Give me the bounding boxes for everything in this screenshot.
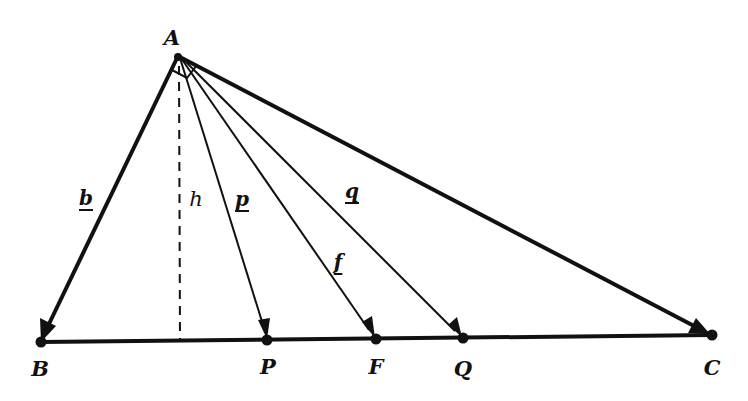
point-f-dot: [371, 334, 382, 345]
label-b: B: [31, 358, 49, 379]
vector-f-line: [181, 58, 369, 330]
point-b-dot: [36, 337, 47, 348]
point-p-dot: [262, 335, 273, 346]
label-q: Q: [454, 358, 472, 379]
altitude-h-line: [179, 66, 180, 340]
label-vector-q: q: [345, 181, 359, 201]
label-a: A: [164, 27, 180, 48]
point-c-dot: [707, 330, 718, 341]
label-altitude-h: h: [189, 189, 203, 210]
label-vector-p: p: [235, 189, 249, 209]
vector-c-line: [178, 56, 696, 327]
label-vector-b: b: [79, 188, 93, 208]
label-vector-f: f: [334, 252, 343, 272]
diagram-canvas: [0, 0, 748, 401]
point-a-dot: [174, 53, 182, 61]
label-f: F: [369, 356, 384, 377]
point-q-dot: [458, 333, 469, 344]
triangle-diagram: A B C P F Q b h p f q: [0, 0, 748, 401]
vector-b-line: [48, 56, 178, 326]
label-c: C: [704, 357, 721, 378]
label-p: P: [260, 356, 276, 377]
